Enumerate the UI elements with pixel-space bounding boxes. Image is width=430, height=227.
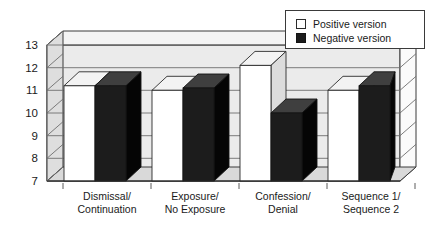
y-tick-13: 13	[25, 39, 38, 51]
y-tick-11: 11	[26, 84, 38, 96]
bar-front	[240, 65, 271, 181]
bar-side	[214, 74, 229, 181]
bar-group-0	[64, 72, 141, 181]
category-label-0-line2: Continuation	[78, 203, 137, 215]
bar-chart: 13 12 11 10 9 8 7	[0, 0, 430, 227]
legend: Positive version Negative version	[286, 11, 425, 49]
bar-front	[64, 86, 95, 181]
category-label-2-line2: Denial	[268, 203, 298, 215]
category-label-1-line1: Exposure/	[171, 190, 218, 202]
y-tick-10: 10	[25, 107, 38, 119]
bar-group-3	[328, 72, 395, 181]
legend-swatch-negative	[297, 34, 306, 43]
bar-side	[302, 99, 317, 181]
bar-2-negative[interactable]	[271, 99, 317, 181]
x-axis-ticks	[63, 183, 415, 189]
legend-label-negative: Negative version	[313, 32, 391, 44]
y-axis-labels: 13 12 11 10 9 8 7	[25, 39, 38, 187]
bar-0-negative[interactable]	[95, 72, 141, 181]
legend-swatch-positive	[297, 20, 306, 29]
category-label-1-line2: No Exposure	[165, 203, 226, 215]
category-label-3-line1: Sequence 1/	[342, 190, 401, 202]
chart-canvas: 13 12 11 10 9 8 7	[0, 0, 430, 227]
category-label-2-line1: Confession/	[255, 190, 311, 202]
bar-front	[328, 90, 359, 181]
category-label-0-line1: Dismissal/	[83, 190, 131, 202]
bar-1-negative[interactable]	[183, 74, 229, 181]
bar-front	[359, 86, 390, 181]
category-label-3-line2: Sequence 2	[343, 203, 399, 215]
bar-front	[271, 113, 302, 181]
bar-side	[126, 72, 141, 181]
legend-label-positive: Positive version	[313, 18, 387, 30]
y-tick-8: 8	[32, 152, 38, 164]
x-axis-labels: Dismissal/ Continuation Exposure/ No Exp…	[78, 190, 401, 215]
bar-front	[183, 88, 214, 181]
y-tick-12: 12	[25, 62, 38, 74]
bar-3-negative[interactable]	[359, 72, 395, 181]
bar-front	[152, 90, 183, 181]
bar-side	[390, 72, 395, 181]
y-tick-9: 9	[32, 130, 38, 142]
y-tick-7: 7	[32, 175, 38, 187]
bar-group-1	[152, 74, 229, 181]
bar-front	[95, 86, 126, 181]
